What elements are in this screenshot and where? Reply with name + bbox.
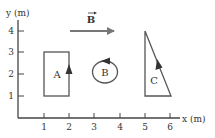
magnetic-field-loops-diagram: 1 2 3 4 1 2 3 4 5 6 y (m) x (m) B A B C bbox=[0, 0, 215, 138]
current-arrow-up-icon bbox=[66, 64, 73, 74]
field-label: B bbox=[87, 14, 95, 25]
loop-c: C bbox=[145, 31, 171, 96]
current-arrow-ccw-icon bbox=[101, 58, 110, 65]
y-axis-label: y (m) bbox=[5, 8, 30, 18]
loop-b: B bbox=[93, 58, 118, 84]
x-tick-label: 2 bbox=[66, 122, 72, 132]
x-tick-label: 1 bbox=[41, 122, 47, 132]
loop-c-label: C bbox=[150, 75, 158, 86]
x-axis-label: x (m) bbox=[182, 114, 206, 124]
loop-b-label: B bbox=[101, 67, 108, 78]
magnetic-field-vector: B bbox=[70, 12, 114, 32]
y-tick-label: 1 bbox=[8, 91, 14, 101]
x-tick-label: 6 bbox=[167, 122, 173, 132]
loop-a-label: A bbox=[52, 69, 61, 80]
x-tick-label: 5 bbox=[142, 122, 148, 132]
y-ticks bbox=[18, 31, 24, 96]
y-tick-label: 3 bbox=[8, 47, 14, 57]
loop-a: A bbox=[44, 52, 73, 96]
y-tick-label: 4 bbox=[8, 26, 14, 36]
x-tick-label: 3 bbox=[91, 122, 97, 132]
y-tick-label: 2 bbox=[8, 69, 14, 79]
x-ticks bbox=[44, 113, 170, 118]
x-tick-label: 4 bbox=[117, 122, 123, 132]
